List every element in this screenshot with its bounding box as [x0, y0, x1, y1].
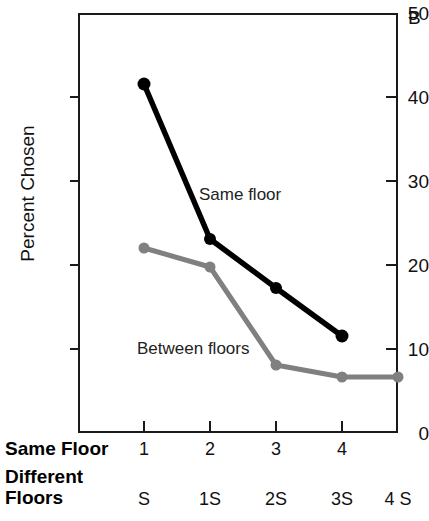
category-row2-value-5: 4 S	[384, 489, 411, 509]
y-axis-title: Percent Chosen	[18, 114, 37, 274]
category-row-label-different-line2: Floors	[5, 487, 63, 508]
category-row1-value-1: 1	[139, 439, 149, 459]
category-row1-value-3: 3	[271, 439, 281, 459]
x-tick-mark-4	[341, 421, 343, 433]
x-tick-mark-2	[209, 421, 211, 433]
annotation-between-floors: Between floors	[137, 340, 249, 358]
y-tick-mark-right-40	[386, 96, 396, 98]
y-tick-mark-right-20	[386, 264, 396, 266]
category-row1-value-2: 2	[205, 439, 215, 459]
category-row2-value-4: 3S	[331, 489, 353, 509]
category-row-label-same-floor: Same Floor	[5, 438, 108, 459]
x-tick-mark-3	[275, 421, 277, 433]
plot-frame	[78, 13, 398, 433]
category-row2-value-2: 1S	[199, 489, 221, 509]
category-row2-value-3: 2S	[265, 489, 287, 509]
category-row2-value-1: S	[138, 489, 150, 509]
category-row1-value-4: 4	[337, 439, 347, 459]
figure-panel-b: B Percent Chosen 0 10 20 30 40 50 Same f…	[0, 0, 429, 521]
x-tick-mark-1	[143, 421, 145, 433]
annotation-same-floor: Same floor	[199, 186, 281, 204]
y-tick-mark-right-10	[386, 348, 396, 350]
x-axis-category-block: Same Floor Different Floors 1 2 3 4 S 1S…	[0, 437, 429, 521]
category-row-label-different-line1: Different	[5, 466, 83, 487]
y-tick-mark-right-30	[386, 180, 396, 182]
